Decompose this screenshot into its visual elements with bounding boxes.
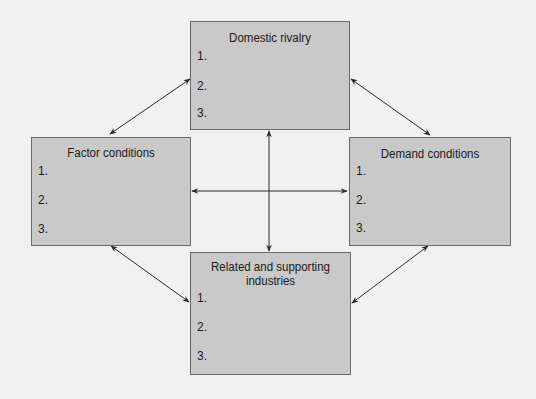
arrow-domestic-factor xyxy=(110,79,190,134)
domestic-rivalry-item-2: 2. xyxy=(197,79,207,93)
factor-conditions-item-1: 1. xyxy=(38,164,48,178)
factor-conditions-box: Factor conditions 1. 2. 3. xyxy=(31,137,191,246)
factor-conditions-title: Factor conditions xyxy=(38,146,183,160)
arrow-factor-related xyxy=(111,246,189,302)
factor-conditions-item-3: 3. xyxy=(38,222,48,236)
domestic-rivalry-item-1: 1. xyxy=(197,49,207,63)
domestic-rivalry-item-3: 3. xyxy=(197,106,207,120)
arrow-domestic-demand xyxy=(351,79,430,135)
demand-conditions-title: Demand conditions xyxy=(356,147,503,161)
domestic-rivalry-title: Domestic rivalry xyxy=(197,31,342,45)
arrow-demand-related xyxy=(352,246,428,303)
related-supporting-title-line1: Related and supporting xyxy=(197,260,343,274)
factor-conditions-item-2: 2. xyxy=(38,193,48,207)
related-supporting-item-3: 3. xyxy=(197,349,207,363)
related-supporting-item-2: 2. xyxy=(197,320,207,334)
related-supporting-item-1: 1. xyxy=(197,291,207,305)
related-supporting-box: Related and supporting industries 1. 2. … xyxy=(190,252,351,375)
domestic-rivalry-box: Domestic rivalry 1. 2. 3. xyxy=(190,21,350,130)
demand-conditions-item-2: 2. xyxy=(356,193,366,207)
demand-conditions-item-3: 3. xyxy=(356,221,366,235)
demand-conditions-box: Demand conditions 1. 2. 3. xyxy=(349,137,511,246)
demand-conditions-item-1: 1. xyxy=(356,164,366,178)
related-supporting-title-line2: industries xyxy=(197,274,343,288)
